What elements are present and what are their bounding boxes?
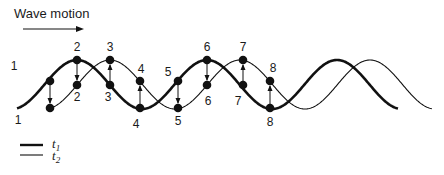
- particle-dot: [136, 77, 145, 86]
- wave-diagram: Wave motion 1122334455667788 t1 t2: [0, 0, 444, 175]
- particle-dot: [203, 56, 212, 65]
- particle-dot: [266, 104, 275, 113]
- point-1: 11: [11, 59, 55, 127]
- point-label: 4: [133, 117, 140, 131]
- point-5: 55: [165, 65, 183, 128]
- point-label: 3: [107, 40, 114, 54]
- point-label: 8: [270, 61, 277, 75]
- particle-dot: [106, 81, 115, 90]
- point-label: 1: [15, 113, 22, 127]
- point-label: 3: [105, 90, 112, 104]
- point-label: 5: [165, 65, 172, 79]
- wave-motion-arrow: [23, 26, 84, 32]
- point-label: 7: [240, 40, 247, 54]
- point-label: 2: [74, 90, 81, 104]
- point-2: 22: [73, 40, 82, 104]
- point-label: 5: [175, 114, 182, 128]
- particle-dot: [136, 104, 145, 113]
- point-7: 77: [235, 40, 248, 108]
- particle-dot: [106, 56, 115, 65]
- point-label: 8: [267, 115, 274, 129]
- particle-dot: [239, 56, 248, 65]
- particle-dot: [203, 81, 212, 90]
- point-label: 1: [11, 59, 18, 73]
- particle-dot: [239, 81, 248, 90]
- point-label: 7: [235, 94, 242, 108]
- point-6: 66: [203, 40, 212, 108]
- legend: t1 t2: [20, 136, 61, 165]
- particle-dot: [73, 56, 82, 65]
- point-4: 44: [133, 62, 145, 131]
- particle-dot: [266, 77, 275, 86]
- particle-dot: [46, 77, 55, 86]
- particle-dot: [174, 77, 183, 86]
- particle-dot: [46, 104, 55, 113]
- point-3: 33: [105, 40, 115, 104]
- point-label: 4: [138, 62, 145, 76]
- point-label: 2: [74, 40, 81, 54]
- point-8: 88: [266, 61, 277, 129]
- point-label: 6: [205, 94, 212, 108]
- diagram-title: Wave motion: [14, 6, 89, 21]
- particle-dot: [174, 104, 183, 113]
- particle-dot: [73, 81, 82, 90]
- point-label: 6: [204, 40, 211, 54]
